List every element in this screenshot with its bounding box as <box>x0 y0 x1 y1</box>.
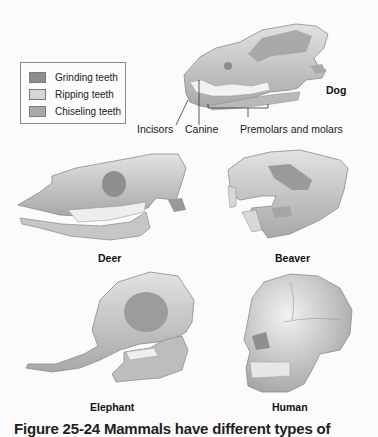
elephant-label: Elephant <box>90 401 134 413</box>
incisors-label: Incisors <box>137 123 173 135</box>
premolars-molars-label: Premolars and molars <box>240 123 343 135</box>
deer-label: Deer <box>98 252 121 264</box>
legend-item-chiseling: Chiseling teeth <box>29 105 121 117</box>
legend-label: Chiseling teeth <box>55 106 121 117</box>
beaver-label: Beaver <box>275 252 310 264</box>
deer-skull <box>18 154 186 240</box>
grinding-swatch-icon <box>29 72 46 83</box>
beaver-skull <box>228 150 348 238</box>
legend-item-grinding: Grinding teeth <box>29 71 118 83</box>
ripping-swatch-icon <box>29 89 46 100</box>
legend-label: Ripping teeth <box>55 89 114 100</box>
teeth-type-legend: Grinding teeth Ripping teeth Chiseling t… <box>20 62 126 124</box>
legend-item-ripping: Ripping teeth <box>29 88 114 100</box>
canine-label: Canine <box>185 123 218 135</box>
chiseling-swatch-icon <box>29 106 46 117</box>
dog-label: Dog <box>326 84 346 96</box>
legend-label: Grinding teeth <box>55 72 118 83</box>
figure-caption: Figure 25-24 Mammals have different type… <box>14 420 330 437</box>
dog-skull <box>184 24 328 110</box>
human-label: Human <box>272 401 308 413</box>
elephant-skull <box>26 272 194 382</box>
human-skull <box>244 274 352 392</box>
